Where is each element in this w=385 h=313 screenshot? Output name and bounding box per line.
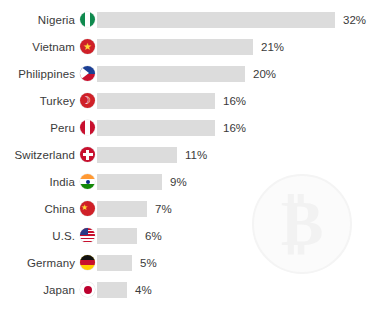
flag-germany-icon bbox=[80, 255, 95, 270]
bar-row-usa: U.S. 6% bbox=[0, 222, 385, 249]
bar-row-philippines: Philippines 20% bbox=[0, 60, 385, 87]
bar-rows: Nigeria 32% Vietnam 21% Philippines 20% … bbox=[0, 6, 385, 303]
bar-peru bbox=[97, 120, 215, 136]
bar-row-nigeria: Nigeria 32% bbox=[0, 6, 385, 33]
bar-row-china: China 7% bbox=[0, 195, 385, 222]
bar-row-peru: Peru 16% bbox=[0, 114, 385, 141]
bar-switzerland bbox=[97, 147, 177, 163]
value-label-germany: 5% bbox=[140, 257, 157, 269]
category-label-philippines: Philippines bbox=[0, 68, 80, 80]
bar-row-japan: Japan 4% bbox=[0, 276, 385, 303]
bar-row-germany: Germany 5% bbox=[0, 249, 385, 276]
category-label-japan: Japan bbox=[0, 284, 80, 296]
bar-china bbox=[97, 201, 147, 217]
value-label-usa: 6% bbox=[145, 230, 162, 242]
bar-vietnam bbox=[97, 39, 253, 55]
bar-row-turkey: Turkey 16% bbox=[0, 87, 385, 114]
value-label-china: 7% bbox=[155, 203, 172, 215]
value-label-peru: 16% bbox=[223, 122, 246, 134]
value-label-japan: 4% bbox=[135, 284, 152, 296]
flag-china-icon bbox=[80, 201, 95, 216]
flag-japan-icon bbox=[80, 282, 95, 297]
bar-philippines bbox=[97, 66, 245, 82]
bar-row-vietnam: Vietnam 21% bbox=[0, 33, 385, 60]
value-label-turkey: 16% bbox=[223, 95, 246, 107]
bar-turkey bbox=[97, 93, 215, 109]
category-label-switzerland: Switzerland bbox=[0, 149, 80, 161]
bar-germany bbox=[97, 255, 132, 271]
bar-row-switzerland: Switzerland 11% bbox=[0, 141, 385, 168]
category-label-vietnam: Vietnam bbox=[0, 41, 80, 53]
flag-vietnam-icon bbox=[80, 39, 95, 54]
bar-nigeria bbox=[97, 12, 335, 28]
value-label-vietnam: 21% bbox=[261, 41, 284, 53]
category-label-peru: Peru bbox=[0, 122, 80, 134]
flag-usa-icon bbox=[80, 228, 95, 243]
bar-row-india: India 9% bbox=[0, 168, 385, 195]
flag-switzerland-icon bbox=[80, 147, 95, 162]
value-label-philippines: 20% bbox=[253, 68, 276, 80]
category-label-turkey: Turkey bbox=[0, 95, 80, 107]
category-label-nigeria: Nigeria bbox=[0, 14, 80, 26]
category-label-india: India bbox=[0, 176, 80, 188]
bar-japan bbox=[97, 282, 127, 298]
category-label-china: China bbox=[0, 203, 80, 215]
category-label-usa: U.S. bbox=[0, 230, 80, 242]
category-label-germany: Germany bbox=[0, 257, 80, 269]
flag-india-icon bbox=[80, 174, 95, 189]
bar-usa bbox=[97, 228, 137, 244]
value-label-nigeria: 32% bbox=[343, 14, 366, 26]
flag-peru-icon bbox=[80, 120, 95, 135]
value-label-india: 9% bbox=[170, 176, 187, 188]
flag-turkey-icon bbox=[80, 93, 95, 108]
value-label-switzerland: 11% bbox=[185, 149, 207, 161]
bar-india bbox=[97, 174, 162, 190]
flag-philippines-icon bbox=[80, 66, 95, 81]
horizontal-bar-chart: ₿ Nigeria 32% Vietnam 21% Philippines 20… bbox=[0, 0, 385, 313]
flag-nigeria-icon bbox=[80, 12, 95, 27]
